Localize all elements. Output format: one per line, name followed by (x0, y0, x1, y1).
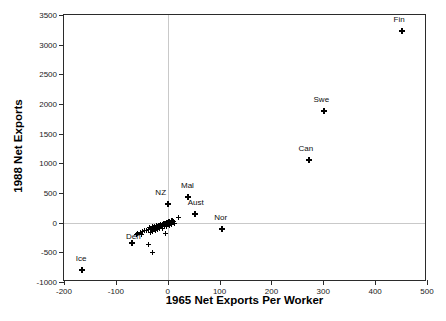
data-point (219, 226, 225, 232)
x-tick (271, 280, 272, 285)
y-tick-label: 0 (53, 218, 57, 227)
x-tick (116, 280, 117, 285)
data-point-label: Fin (394, 15, 405, 24)
data-point (321, 108, 327, 114)
y-tick (59, 163, 64, 164)
data-point (306, 157, 312, 163)
x-tick (323, 280, 324, 285)
data-point-label: Den (126, 232, 141, 241)
x-tick (168, 280, 169, 285)
x-axis-title: 1965 Net Exports Per Worker (63, 294, 426, 306)
y-axis-title: 1988 Net Exports (12, 46, 24, 246)
data-point-label: Aust (188, 198, 204, 207)
data-point (79, 267, 85, 273)
y-tick-label: 1500 (39, 129, 57, 138)
y-tick-label: 2500 (39, 70, 57, 79)
data-point (163, 231, 168, 236)
y-tick (59, 15, 64, 16)
y-tick-label: 2000 (39, 100, 57, 109)
y-tick-label: 1000 (39, 159, 57, 168)
data-point-label: NZ (155, 188, 166, 197)
y-tick (59, 104, 64, 105)
data-point-label: Can (298, 144, 313, 153)
y-tick (59, 223, 64, 224)
data-point-label: Ice (76, 254, 87, 263)
data-point-label: Nor (214, 213, 227, 222)
x-tick (220, 280, 221, 285)
data-point (150, 250, 155, 255)
x-zero-reference-line (168, 15, 169, 280)
y-tick-label: 500 (44, 189, 57, 198)
x-tick (375, 280, 376, 285)
y-tick-label: 3500 (39, 11, 57, 20)
x-tick (64, 280, 65, 285)
y-tick (59, 252, 64, 253)
plot-area: -1000-5000500100015002000250030003500 -2… (63, 14, 426, 281)
y-tick-label: -1000 (37, 278, 57, 287)
y-tick (59, 74, 64, 75)
data-point (192, 211, 198, 217)
y-tick-label: 3000 (39, 40, 57, 49)
x-tick (427, 280, 428, 285)
y-tick-label: -500 (41, 248, 57, 257)
data-point (148, 230, 153, 235)
y-zero-reference-line (64, 223, 425, 224)
data-point-label: Mal (181, 181, 194, 190)
data-point (146, 242, 151, 247)
y-tick (59, 45, 64, 46)
data-point-label: Swe (314, 95, 330, 104)
y-tick (59, 193, 64, 194)
data-point (399, 28, 405, 34)
y-tick (59, 134, 64, 135)
scatter-plot-figure: -1000-5000500100015002000250030003500 -2… (0, 0, 446, 321)
data-point (165, 201, 171, 207)
